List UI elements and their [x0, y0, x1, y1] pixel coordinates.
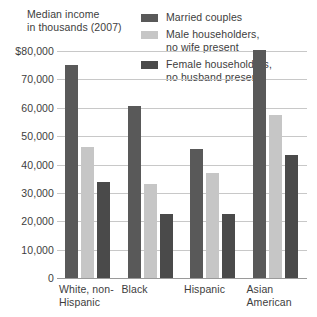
y-axis-tick-label: 60,000 — [0, 103, 54, 114]
x-axis-tick-label: White, non-Hispanic — [59, 283, 114, 309]
bar[interactable] — [269, 115, 282, 278]
bar[interactable] — [222, 214, 235, 278]
chart-title-line-2: in thousands (2007) — [27, 21, 147, 34]
bar-group — [182, 51, 245, 278]
bar[interactable] — [65, 65, 78, 278]
bar[interactable] — [128, 106, 141, 278]
x-axis-tick-label: Black — [122, 283, 148, 296]
chart-title: Median income in thousands (2007) — [27, 8, 147, 34]
plot-area — [57, 51, 307, 278]
bar-chart: Median income in thousands (2007) Marrie… — [0, 0, 317, 317]
bar[interactable] — [160, 214, 173, 278]
x-axis-tick-label: Hispanic — [184, 283, 225, 296]
legend-swatch-male-householders — [141, 31, 158, 39]
chart-title-line-1: Median income — [27, 8, 147, 21]
bar[interactable] — [97, 182, 110, 278]
y-axis-tick-label: 0 — [0, 273, 54, 284]
bar[interactable] — [206, 173, 219, 278]
y-axis-tick-label: 30,000 — [0, 188, 54, 199]
bar[interactable] — [81, 147, 94, 278]
y-axis-tick-label: 10,000 — [0, 245, 54, 256]
bar[interactable] — [190, 149, 203, 278]
bar[interactable] — [285, 155, 298, 278]
legend-label-married-couples: Married couples — [166, 11, 242, 24]
bar-group — [120, 51, 183, 278]
y-axis-tick-label: 50,000 — [0, 131, 54, 142]
gridline — [57, 278, 307, 279]
legend-item-married-couples: Married couples — [141, 11, 317, 24]
y-axis-tick-label: 20,000 — [0, 216, 54, 227]
y-axis-tick-label: 70,000 — [0, 74, 54, 85]
bar-group — [57, 51, 120, 278]
bar[interactable] — [253, 50, 266, 278]
y-axis-tick-label: $80,000 — [0, 46, 54, 57]
bar[interactable] — [144, 184, 157, 278]
legend-swatch-married-couples — [141, 14, 158, 22]
x-axis-tick-label: AsianAmerican — [247, 283, 292, 309]
bar-group — [245, 51, 308, 278]
y-axis-tick-label: 40,000 — [0, 160, 54, 171]
